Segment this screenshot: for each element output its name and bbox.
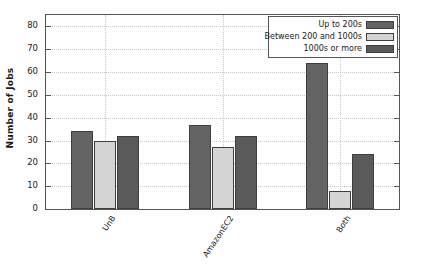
y-tick-label: 70 xyxy=(27,43,38,53)
bar xyxy=(189,125,211,209)
legend: Up to 200sBetween 200 and 1000s1000s or … xyxy=(268,16,398,58)
y-axis-tick-labels: 01020304050607080 xyxy=(18,14,42,210)
y-tick-label: 10 xyxy=(27,180,38,190)
y-tick-mark xyxy=(46,141,51,142)
y-tick-mark xyxy=(46,26,51,27)
bar xyxy=(71,131,93,209)
y-tick-mark xyxy=(46,186,51,187)
x-tick-label-text: AmazonEC2 xyxy=(201,214,235,259)
y-tick-mark xyxy=(394,95,399,96)
x-tick-label-text: Both xyxy=(335,214,353,234)
y-tick-mark xyxy=(46,95,51,96)
bar xyxy=(212,147,234,209)
legend-item-label: Up to 200s xyxy=(319,20,363,29)
y-tick-mark xyxy=(46,72,51,73)
legend-item[interactable]: Between 200 and 1000s xyxy=(272,31,394,42)
legend-item[interactable]: Up to 200s xyxy=(272,19,394,30)
y-tick-label: 0 xyxy=(33,203,38,213)
legend-item-label: 1000s or more xyxy=(303,44,362,53)
y-tick-mark xyxy=(394,118,399,119)
legend-item[interactable]: 1000s or more xyxy=(272,43,394,54)
y-tick-label: 20 xyxy=(27,157,38,167)
y-tick-mark xyxy=(394,186,399,187)
y-tick-label: 80 xyxy=(27,20,38,30)
y-tick-mark xyxy=(46,118,51,119)
y-tick-mark xyxy=(46,163,51,164)
y-tick-mark xyxy=(394,72,399,73)
legend-item-label: Between 200 and 1000s xyxy=(265,32,362,41)
legend-color-swatch xyxy=(366,33,394,41)
y-tick-mark xyxy=(46,49,51,50)
bar xyxy=(117,136,139,209)
bar-chart-figure: Number of Jobs 01020304050607080 UnBAmaz… xyxy=(0,0,423,270)
y-tick-mark xyxy=(394,141,399,142)
y-tick-mark xyxy=(394,163,399,164)
legend-color-swatch xyxy=(366,21,394,29)
bar xyxy=(94,141,116,209)
y-tick-label: 40 xyxy=(27,112,38,122)
x-tick-label-text: UnB xyxy=(101,214,118,233)
y-tick-label: 60 xyxy=(27,66,38,76)
bar xyxy=(329,191,351,209)
x-axis-tick-labels: UnBAmazonEC2Both xyxy=(45,210,400,268)
y-axis-title: Number of Jobs xyxy=(2,0,18,215)
y-tick-label: 50 xyxy=(27,89,38,99)
legend-color-swatch xyxy=(366,45,394,53)
bar xyxy=(306,63,328,209)
y-axis-title-text: Number of Jobs xyxy=(5,67,15,148)
y-tick-label: 30 xyxy=(27,135,38,145)
